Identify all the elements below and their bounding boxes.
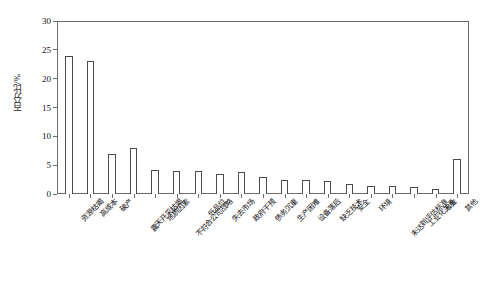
x-tick-mark [306,194,307,198]
x-tick-label: 生产困难 [296,198,321,223]
x-tick-mark [69,194,70,198]
bar [453,159,461,194]
x-tick-mark [177,194,178,198]
x-tick-mark [392,194,393,198]
bar [324,181,332,194]
x-tick-label: 资源枯竭 [80,198,105,223]
bar [173,171,181,194]
y-tick-label: 20 [42,74,51,84]
y-tick-label: 5 [47,160,52,170]
bar [281,180,289,194]
bar [346,184,354,194]
x-tick-label: 破产 [119,198,135,214]
x-tick-label: 低品位 [207,198,228,219]
x-tick-label: 不符合公司战略 [194,198,234,238]
x-tick-label: 缺乏技术 [339,198,364,223]
x-tick-label: 冶金 [443,198,459,214]
x-tick-label: 工业化关系 [427,198,457,228]
x-tick-label: 安全 [356,198,372,214]
bar [302,180,310,194]
bar [259,177,267,194]
x-tick-label: 其他 [464,198,480,214]
x-tick-label: 露天开采枯竭 [149,198,184,233]
x-tick-label: 未达到评估标准 [410,198,450,238]
x-axis-ticks [58,194,468,199]
y-tick-label: 0 [47,189,52,199]
x-tick-mark [241,194,242,198]
bar [367,186,375,194]
y-tick-label: 25 [42,45,51,55]
x-tick-label: 环境 [378,198,394,214]
x-tick-label: 设备落后 [317,198,342,223]
x-tick-label: 高成本 [100,198,121,219]
x-tick-mark [90,194,91,198]
bar [238,172,246,194]
bar [195,171,203,194]
x-tick-mark [155,194,156,198]
x-tick-mark [328,194,329,198]
x-tick-mark [285,194,286,198]
x-tick-label: 政府干预 [253,198,278,223]
x-tick-mark [112,194,113,198]
bar [216,174,224,194]
bar-series [58,22,468,194]
x-tick-mark [220,194,221,198]
bar [389,186,397,194]
bar [108,154,116,194]
x-tick-mark [134,194,135,198]
x-tick-mark [349,194,350,198]
bar [87,61,95,194]
bar [410,187,418,194]
y-tick-label: 15 [42,103,51,113]
x-tick-label: 债务沉重 [274,198,299,223]
x-tick-mark [414,194,415,198]
y-axis-ticks: 051015202530 [0,21,57,194]
y-tick-label: 10 [42,131,51,141]
x-tick-mark [371,194,372,198]
bar [65,56,73,194]
y-tick-label: 30 [42,16,51,26]
bar [151,170,159,194]
x-tick-label: 地质因素 [166,198,191,223]
x-tick-mark [436,194,437,198]
bar-chart: 百分比/% 051015202530 资源枯竭高成本破产露天开采枯竭地质因素不符… [0,0,495,282]
bar [130,148,138,194]
x-tick-mark [198,194,199,198]
x-tick-label: 失去市场 [231,198,256,223]
x-tick-mark [457,194,458,198]
x-tick-mark [263,194,264,198]
